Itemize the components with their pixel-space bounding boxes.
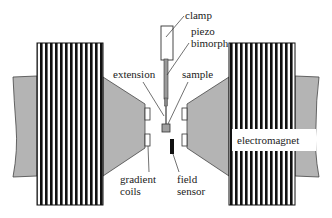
sample-label: sample bbox=[182, 68, 213, 80]
field-label-line1: field bbox=[177, 173, 198, 185]
field-sensor-leader bbox=[173, 154, 179, 172]
extension-label: extension bbox=[113, 68, 156, 80]
right-electromagnet-coil bbox=[229, 43, 295, 205]
piezo-label-line1: piezo bbox=[191, 25, 215, 37]
right-pole-piece bbox=[187, 77, 229, 176]
piezo-label-line2: bimorph bbox=[191, 37, 229, 49]
left-pole-piece bbox=[103, 77, 145, 176]
sample bbox=[162, 124, 170, 132]
left-yoke bbox=[13, 76, 37, 177]
piezo-bimorph bbox=[164, 59, 168, 99]
gradient-leader bbox=[148, 146, 149, 172]
gradient-coil-right-upper bbox=[182, 108, 187, 120]
gradient-coil-left-upper bbox=[145, 108, 150, 120]
agfm-diagram: electromagnet clamp piezo bimorph extens… bbox=[0, 0, 332, 218]
gradient-label-line1: gradient bbox=[120, 173, 156, 185]
field-label-line2: sensor bbox=[177, 185, 205, 197]
gradient-label-line2: coils bbox=[120, 185, 141, 197]
field-sensor bbox=[170, 139, 174, 154]
extension-tip bbox=[165, 98, 168, 106]
gradient-coil-left-lower bbox=[145, 134, 150, 146]
clamp-label: clamp bbox=[185, 9, 212, 21]
electromagnet-label: electromagnet bbox=[237, 134, 299, 146]
gradient-coil-right-lower bbox=[182, 134, 187, 146]
left-electromagnet-coil bbox=[37, 43, 103, 205]
right-yoke bbox=[295, 76, 319, 177]
